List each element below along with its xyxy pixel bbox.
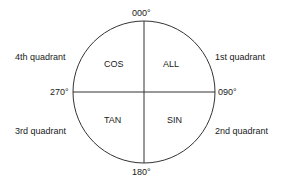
quadrant-1-label: 1st quadrant <box>215 53 265 62</box>
rule-all-label: ALL <box>163 60 179 69</box>
bearing-180-label: 180° <box>132 168 151 177</box>
bearing-000-label: 000° <box>132 9 151 18</box>
rule-cos-label: COS <box>104 60 124 69</box>
quadrant-2-label: 2nd quadrant <box>215 127 268 136</box>
rule-tan-label: TAN <box>104 116 121 125</box>
quadrant-diagram <box>0 0 288 186</box>
quadrant-4-label: 4th quadrant <box>15 53 66 62</box>
bearing-090-label: 090° <box>218 88 237 97</box>
rule-sin-label: SIN <box>167 116 182 125</box>
quadrant-3-label: 3rd quadrant <box>15 127 66 136</box>
bearing-270-label: 270° <box>50 88 69 97</box>
